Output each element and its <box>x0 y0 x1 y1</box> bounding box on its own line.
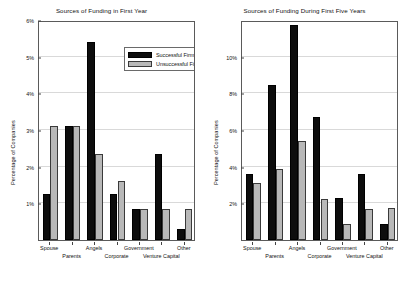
y-tick-label: 4% <box>215 165 237 171</box>
bar-spouse-successful <box>246 174 254 240</box>
bar-spouse-unsuccessful <box>253 183 261 240</box>
y-tick-label: 2% <box>215 201 237 207</box>
x-tick-mark <box>184 242 185 245</box>
bar-government-unsuccessful <box>343 224 351 241</box>
x-tick-label-angels: Angels <box>86 245 102 251</box>
bar-angels-successful <box>87 42 95 240</box>
bar-other-successful <box>177 229 185 240</box>
y-tick-label: 3% <box>12 128 34 134</box>
legend-row-unsuccessful: Unsuccessful Firms <box>128 59 195 68</box>
bar-government-unsuccessful <box>140 209 148 240</box>
chart-title-left: Sources of Funding in First Year <box>0 7 203 14</box>
legend-label-unsuccessful: Unsuccessful Firms <box>156 61 195 67</box>
chart-title-right: Sources of Funding During First Five Yea… <box>203 7 406 14</box>
bar-parents-successful <box>65 126 73 240</box>
y-tick-mark <box>38 167 41 168</box>
y-tick-label: 8% <box>215 91 237 97</box>
y-tick-mark <box>38 131 41 132</box>
y-tick-mark <box>38 204 41 205</box>
bar-corporate-successful <box>110 194 118 240</box>
x-tick-mark <box>387 242 388 245</box>
plot-area-left: Successful Firms Unsuccessful Firms <box>38 21 195 241</box>
y-tick-mark <box>241 57 244 58</box>
bar-spouse-successful <box>43 194 51 240</box>
x-tick-mark <box>49 242 50 245</box>
bar-other-unsuccessful <box>388 208 396 240</box>
bar-spouse-unsuccessful <box>50 126 58 240</box>
bar-venture-capital-successful <box>155 154 163 240</box>
bar-corporate-unsuccessful <box>118 181 126 240</box>
bar-corporate-successful <box>313 117 321 240</box>
legend-left: Successful Firms Unsuccessful Firms <box>124 47 195 71</box>
x-tick-mark <box>117 242 118 245</box>
bar-government-successful <box>335 198 343 240</box>
y-tick-mark <box>241 131 244 132</box>
x-tick-label-angels: Angels <box>289 245 305 251</box>
chart-panel-first-year: Sources of Funding in First Year Percent… <box>0 0 203 282</box>
x-tick-mark <box>161 242 162 245</box>
y-tick-mark <box>38 57 41 58</box>
x-tick-label-government: Government <box>124 245 154 251</box>
x-axis-labels-right: SpouseParentsAngelsCorporateGovernmentVe… <box>241 245 398 267</box>
y-tick-label: 2% <box>12 165 34 171</box>
x-tick-label-government: Government <box>327 245 357 251</box>
y-tick-label: 1% <box>12 201 34 207</box>
x-tick-label-corporate: Corporate <box>308 253 332 259</box>
y-tick-mark <box>241 167 244 168</box>
bar-group-right <box>242 22 397 240</box>
x-tick-mark <box>320 242 321 245</box>
legend-swatch-unsuccessful <box>128 61 152 67</box>
plot-area-right <box>241 21 398 241</box>
x-tick-label-venture-capital: Venture Capital <box>143 253 180 259</box>
figure-container: Sources of Funding in First Year Percent… <box>0 0 406 282</box>
x-tick-label-parents: Parents <box>265 253 284 259</box>
x-tick-label-spouse: Spouse <box>243 245 261 251</box>
bar-venture-capital-unsuccessful <box>365 209 373 240</box>
legend-swatch-successful <box>128 52 152 58</box>
x-tick-label-spouse: Spouse <box>40 245 58 251</box>
y-tick-label: 6% <box>215 128 237 134</box>
y-tick-label: 5% <box>12 55 34 61</box>
bar-angels-successful <box>290 25 298 240</box>
x-tick-label-corporate: Corporate <box>105 253 129 259</box>
x-tick-label-other: Other <box>177 245 190 251</box>
x-tick-label-parents: Parents <box>62 253 81 259</box>
x-axis-labels-left: SpouseParentsAngelsCorporateGovernmentVe… <box>38 245 195 267</box>
x-tick-mark <box>342 242 343 245</box>
x-tick-mark <box>72 242 73 245</box>
bar-government-successful <box>132 209 140 240</box>
chart-panel-five-years: Sources of Funding During First Five Yea… <box>203 0 406 282</box>
y-tick-mark <box>241 94 244 95</box>
bar-other-successful <box>380 224 388 241</box>
bar-angels-unsuccessful <box>298 141 306 240</box>
bar-venture-capital-unsuccessful <box>162 209 170 240</box>
bar-corporate-unsuccessful <box>321 199 329 240</box>
x-tick-mark <box>364 242 365 245</box>
x-tick-mark <box>94 242 95 245</box>
y-tick-label: 4% <box>12 91 34 97</box>
y-tick-mark <box>38 21 41 22</box>
y-tick-label: 10% <box>215 55 237 61</box>
legend-label-successful: Successful Firms <box>156 52 195 58</box>
y-tick-mark <box>241 204 244 205</box>
y-tick-mark <box>38 94 41 95</box>
bar-venture-capital-successful <box>358 174 366 240</box>
bar-other-unsuccessful <box>185 209 193 240</box>
x-tick-mark <box>297 242 298 245</box>
x-tick-label-venture-capital: Venture Capital <box>346 253 383 259</box>
legend-row-successful: Successful Firms <box>128 50 195 59</box>
bar-parents-unsuccessful <box>73 126 81 240</box>
bar-angels-unsuccessful <box>95 154 103 240</box>
x-tick-label-other: Other <box>380 245 393 251</box>
x-tick-mark <box>252 242 253 245</box>
bar-parents-unsuccessful <box>276 169 284 241</box>
x-tick-mark <box>275 242 276 245</box>
bar-parents-successful <box>268 85 276 240</box>
y-tick-label: 6% <box>12 18 34 24</box>
x-tick-mark <box>139 242 140 245</box>
